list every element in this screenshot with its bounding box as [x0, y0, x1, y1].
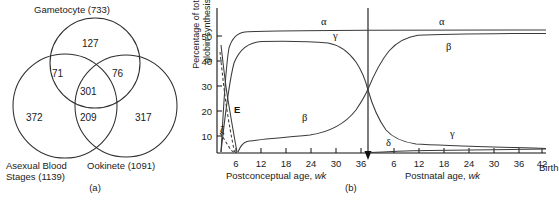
venn-label-ookinete: Ookinete (1091) — [87, 160, 155, 171]
x-axis-label-postnatal-units: wk — [468, 170, 480, 181]
venn-count-gametocyte-asexual: 71 — [52, 68, 63, 79]
x-tick-label-pre-18: 18 — [279, 158, 293, 169]
panel-b-caption: (b) — [345, 182, 357, 193]
curve-delta — [370, 149, 546, 153]
curve-label-beta-postnatal: β — [446, 41, 451, 52]
venn-count-gametocyte-ookinete: 76 — [112, 68, 123, 79]
birth-annotation-label: Birth — [539, 162, 559, 173]
x-tick-label-pre-6: 6 — [229, 158, 243, 169]
venn-count-asexual-ookinete: 209 — [80, 112, 97, 123]
curve-label-gamma-postnatal: γ — [450, 128, 455, 139]
venn-circle-ookinete — [75, 55, 177, 157]
x-axis-label-postnatal-text: Postnatal age — [405, 170, 463, 181]
venn-count-ookinete-only: 317 — [135, 112, 152, 123]
curve-label-delta: δ — [386, 137, 391, 148]
x-axis-label-prenatal-units: wk — [315, 170, 327, 181]
venn-label-asexual-line2: Stages (1139) — [6, 171, 65, 182]
curve-alpha — [221, 30, 546, 152]
x-tick-label-pre-12: 12 — [254, 158, 268, 169]
venn-label-asexual-blood-stages: Asexual Blood Stages (1139) — [6, 160, 96, 182]
panel-a-venn-diagram: Gametocyte (733) Asexual Blood Stages (1… — [0, 0, 190, 201]
curve-label-alpha-postnatal: α — [439, 16, 445, 27]
x-tick-label-pre-30: 30 — [329, 158, 343, 169]
venn-count-all-three: 301 — [80, 86, 97, 97]
x-tick-label-post-36: 36 — [512, 158, 526, 169]
x-tick-label-post-18: 18 — [437, 158, 451, 169]
x-axis-label-postnatal: Postnatal age, wk — [405, 170, 480, 181]
venn-label-asexual-line1: Asexual Blood — [6, 160, 67, 171]
venn-count-asexual-only: 372 — [26, 112, 43, 123]
x-axis-label-prenatal: Postconceptual age, wk — [226, 170, 326, 181]
venn-label-gametocyte: Gametocyte (733) — [34, 4, 110, 15]
curve-label-epsilon: E — [234, 104, 240, 115]
curve-beta — [238, 33, 546, 152]
x-tick-label-post-6: 6 — [387, 158, 401, 169]
panel-b-line-chart: Percentage of total globin synthesis 50 … — [190, 0, 547, 201]
curve-label-alpha-prenatal: α — [321, 16, 327, 27]
curve-label-gamma-prenatal: γ — [333, 30, 338, 41]
panel-a-caption: (a) — [0, 182, 190, 193]
x-tick-label-post-24: 24 — [462, 158, 476, 169]
x-tick-label-pre-36: 36 — [354, 158, 368, 169]
venn-circle-asexual — [13, 54, 117, 158]
venn-count-gametocyte-only: 127 — [82, 38, 99, 49]
x-axis-label-prenatal-text: Postconceptual age — [226, 170, 309, 181]
chart-plot-area — [190, 0, 547, 160]
x-tick-label-post-30: 30 — [487, 158, 501, 169]
x-tick-label-pre-24: 24 — [304, 158, 318, 169]
x-tick-label-post-12: 12 — [412, 158, 426, 169]
curve-label-beta-prenatal: β — [302, 112, 307, 123]
curve-label-zeta: ζ — [220, 124, 224, 135]
